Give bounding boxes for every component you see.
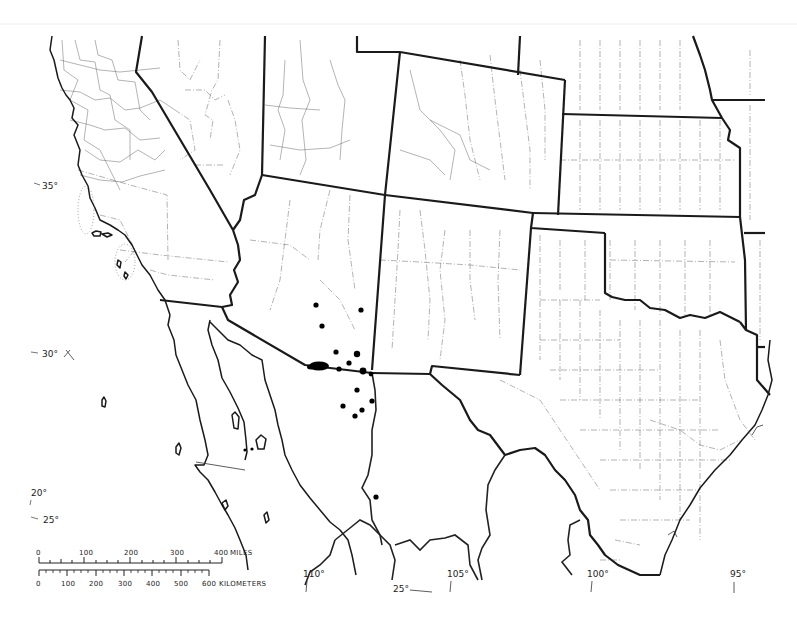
locality-dot xyxy=(346,360,351,365)
locality-dot xyxy=(340,403,345,408)
locality-cluster-extension xyxy=(307,365,315,370)
scale-miles-100: 100 xyxy=(79,549,93,557)
graticule-labels: 35° 30° 20° 25° 110° 25° 105° 100° 95° xyxy=(30,181,746,594)
lat-20-label: 20° xyxy=(31,488,47,498)
locality-dot xyxy=(319,323,324,328)
locality-dot xyxy=(369,372,374,377)
lat-35-label: 35° xyxy=(42,181,58,191)
lat-30-label: 30° xyxy=(42,349,58,359)
lon-110-label: 110° xyxy=(303,569,325,579)
locality-markers xyxy=(243,302,378,499)
scale-km-400: 400 xyxy=(146,580,160,588)
scale-miles-300: 300 xyxy=(170,549,184,557)
locality-dot xyxy=(369,398,374,403)
scale-km-100: 100 xyxy=(61,580,75,588)
locality-dot xyxy=(333,349,338,354)
locality-dot xyxy=(250,447,253,450)
lon-105-label: 105° xyxy=(447,569,469,579)
scale-miles-200: 200 xyxy=(124,549,138,557)
state-boundaries xyxy=(136,36,770,575)
locality-dot xyxy=(373,494,378,499)
locality-dot xyxy=(336,366,341,371)
scale-miles-0: 0 xyxy=(36,549,41,557)
scale-miles-unit: MILES xyxy=(230,549,253,557)
scale-km-500: 500 xyxy=(174,580,188,588)
scale-km-200: 200 xyxy=(89,580,103,588)
scale-bar: 0 100 200 300 400 MILES 0 100 200 300 40… xyxy=(36,549,267,588)
locality-dot xyxy=(354,351,360,357)
lon-100-label: 100° xyxy=(587,569,609,579)
locality-dot xyxy=(243,448,246,451)
lat-25-bottom-label: 25° xyxy=(393,584,409,594)
scale-miles-400: 400 xyxy=(214,549,228,557)
scale-km-0: 0 xyxy=(36,580,41,588)
locality-dot xyxy=(358,307,363,312)
distribution-map: 35° 30° 20° 25° 110° 25° 105° 100° 95° xyxy=(0,0,797,624)
locality-dot xyxy=(359,407,364,412)
scale-km-600: 600 xyxy=(202,580,216,588)
locality-dot xyxy=(313,302,318,307)
locality-dot xyxy=(352,413,357,418)
scale-km-300: 300 xyxy=(118,580,132,588)
locality-dot xyxy=(354,387,359,392)
locality-dot xyxy=(360,368,367,375)
lon-95-label: 95° xyxy=(730,569,746,579)
lat-25-left-label: 25° xyxy=(43,515,59,525)
scale-km-unit: KILOMETERS xyxy=(219,580,267,588)
mexican-state-lines xyxy=(196,373,580,585)
